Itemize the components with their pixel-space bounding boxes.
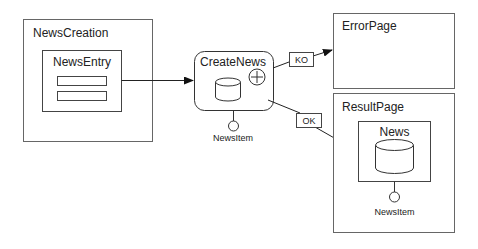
entry-field-icon: [58, 77, 107, 86]
error-page[interactable]: ErrorPage: [334, 14, 455, 89]
ko-link-arrow: [313, 50, 332, 56]
ok-link[interactable]: OK: [297, 114, 322, 128]
create-plus-icon: [249, 69, 265, 85]
param-port-icon: [390, 192, 400, 202]
result-page-label: ResultPage: [342, 100, 404, 114]
create-news-operation[interactable]: CreateNews NewsItem: [195, 52, 274, 144]
database-icon: [216, 78, 241, 101]
param-port-icon: [229, 121, 239, 131]
news-creation-label: NewsCreation: [33, 26, 108, 40]
news-entry-label: NewsEntry: [53, 55, 111, 69]
create-news-param-label: NewsItem: [213, 133, 253, 143]
entry-field-icon: [58, 92, 107, 101]
ok-label: OK: [302, 116, 315, 126]
ko-label: KO: [295, 55, 308, 65]
news-param-label: NewsItem: [374, 207, 414, 217]
ko-link[interactable]: KO: [290, 53, 314, 67]
news-label: News: [379, 125, 409, 139]
webml-diagram: NewsCreation NewsEntry CreateNews NewsIt…: [0, 0, 478, 249]
error-page-label: ErrorPage: [342, 19, 397, 33]
database-icon: [376, 140, 414, 174]
create-news-label: CreateNews: [200, 55, 266, 69]
news-entry-unit[interactable]: NewsEntry: [43, 51, 122, 112]
